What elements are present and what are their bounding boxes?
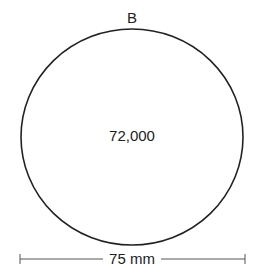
center-value: 72,000 — [92, 127, 172, 144]
circle-label: B — [124, 9, 140, 26]
dimension-label: 75 mm — [103, 250, 161, 267]
